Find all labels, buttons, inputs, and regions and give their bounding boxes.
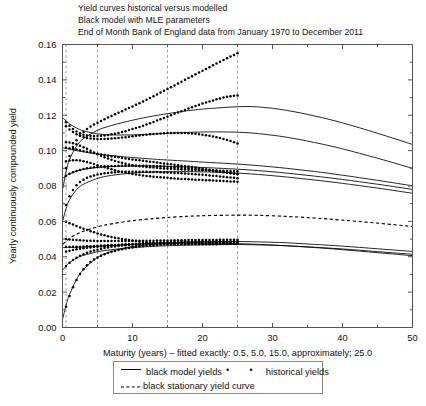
- x-tick-label: 50: [407, 332, 417, 343]
- y-axis-title: Yearly continuously compounded yield: [8, 108, 18, 264]
- chart-legend: black model yields• •historical yields b…: [113, 361, 323, 394]
- legend-solid-line-icon: [121, 369, 141, 370]
- legend-stationary-label: black stationary yield curve: [143, 381, 255, 391]
- axis-labels-layer: 0.000.020.040.060.080.100.120.140.160102…: [8, 39, 418, 358]
- y-tick-label: 0.06: [38, 216, 56, 227]
- x-tick-label: 40: [337, 332, 347, 343]
- historical-series: [65, 94, 239, 137]
- yield-curve-plot: 0.000.020.040.060.080.100.120.140.160102…: [0, 0, 426, 406]
- legend-row-2: black stationary yield curve: [121, 380, 255, 391]
- x-tick-label: 0: [60, 332, 65, 343]
- y-tick-label: 0.16: [38, 39, 56, 50]
- historical-series: [65, 170, 239, 206]
- y-tick-label: 0.02: [38, 287, 56, 298]
- y-tick-label: 0.14: [38, 74, 56, 85]
- legend-dots-icon: • •: [226, 365, 262, 375]
- y-tick-label: 0.08: [38, 180, 56, 191]
- x-tick-label: 10: [127, 332, 137, 343]
- legend-model-label: black model yields: [146, 367, 222, 377]
- x-tick-label: 20: [197, 332, 207, 343]
- y-tick-label: 0.00: [38, 322, 56, 333]
- y-tick-label: 0.12: [38, 110, 56, 121]
- y-tick-label: 0.04: [38, 251, 56, 262]
- model-yield-curve: [63, 243, 413, 318]
- x-tick-label: 30: [267, 332, 277, 343]
- y-tick-label: 0.10: [38, 145, 56, 156]
- x-axis-title: Maturity (years) – fitted exactly: 0.5, …: [103, 348, 372, 358]
- chart-page: Yield curves historical versus modelled …: [0, 0, 426, 406]
- gridlines: [66, 45, 238, 328]
- legend-historical-label: historical yields: [266, 367, 329, 377]
- legend-row-1: black model yields• •historical yields: [121, 366, 329, 377]
